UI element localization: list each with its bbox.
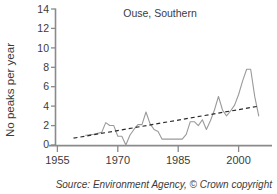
y-tick-label-6: 6 [43,80,49,92]
chart-title: Ouse, Southern [123,7,197,19]
x-tick-label-1970: 1970 [106,154,130,166]
y-tick-label-10: 10 [37,42,49,54]
y-axis-label: No peaks per year [4,43,16,137]
source-caption: Source: Environment Agency, © Crown copy… [56,179,274,190]
y-tick-label-12: 12 [37,22,49,34]
y-tick-label-4: 4 [43,100,49,112]
y-tick-label-8: 8 [43,61,49,73]
data-series-line [86,69,259,145]
y-tick-label-0: 0 [43,138,49,150]
x-tick-label-1955: 1955 [45,154,69,166]
chart-svg: No peaks per year 14 12 10 8 6 4 2 0 195… [0,0,277,194]
x-tick-label-2000: 2000 [226,154,250,166]
y-tick-label-14: 14 [37,3,49,15]
x-tick-label-1985: 1985 [166,154,190,166]
y-tick-label-2: 2 [43,119,49,131]
chart-figure: No peaks per year 14 12 10 8 6 4 2 0 195… [0,0,277,194]
